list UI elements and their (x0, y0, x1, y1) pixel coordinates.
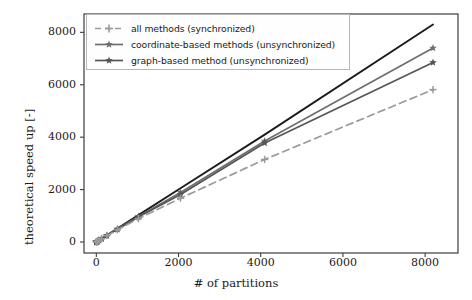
x-tick-label-3: 6000 (313, 256, 373, 269)
y-tick-label-1: 2000 (32, 183, 76, 196)
legend-swatch-star-icon (94, 54, 124, 67)
legend-label-2: graph-based method (unsynchronized) (131, 55, 309, 66)
plus-marker (429, 86, 436, 93)
x-tick-label-1: 2000 (149, 256, 209, 269)
plus-marker (261, 156, 268, 163)
legend-swatch-star-icon (94, 38, 124, 51)
legend-label-1: coordinate-based methods (unsynchronized… (131, 39, 335, 50)
y-tick-label-0: 0 (32, 235, 76, 248)
y-tick-label-3: 6000 (32, 78, 76, 91)
legend-item-1[interactable]: coordinate-based methods (unsynchronized… (94, 36, 335, 53)
legend-item-0[interactable]: all methods (synchronized) (94, 20, 255, 37)
chart-figure: # of partitions theoretical speed up [-]… (0, 0, 472, 300)
x-tick-label-4: 8000 (395, 256, 455, 269)
y-tick-label-2: 4000 (32, 130, 76, 143)
x-tick-label-2: 4000 (231, 256, 291, 269)
x-tick-label-0: 0 (66, 256, 126, 269)
x-axis-label: # of partitions (0, 276, 472, 290)
chart-legend: all methods (synchronized)coordinate-bas… (86, 14, 350, 70)
legend-item-2[interactable]: graph-based method (unsynchronized) (94, 52, 309, 69)
legend-swatch-plus-icon (94, 22, 124, 35)
legend-label-0: all methods (synchronized) (131, 23, 255, 34)
y-tick-label-4: 8000 (32, 25, 76, 38)
series-line-all-methods-sync (96, 90, 433, 242)
